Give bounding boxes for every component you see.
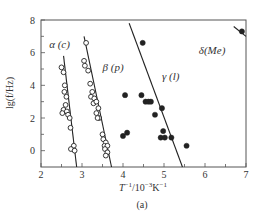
open-circle-marker [59,65,64,70]
filled-circle-marker [140,40,145,45]
filled-circle-marker [122,93,127,98]
open-circle-marker [82,58,87,63]
panel-label: (a) [136,199,147,211]
filled-circle-marker [148,99,153,104]
filled-circle-marker [139,93,144,98]
open-circle-marker [96,106,101,111]
x-axis-title: T−1/10−3K−1 [119,181,167,193]
x-tick-label: 7 [244,169,249,180]
open-circle-marker [68,125,73,130]
fit-line [129,23,182,167]
open-circle-marker [60,111,65,116]
series-label: δ(Me) [199,44,226,57]
filled-circle-marker [169,135,174,140]
y-tick-label: 0 [30,145,35,156]
open-circle-marker [95,116,100,121]
open-circle-marker [82,63,87,68]
y-tick-label: 2 [30,113,35,124]
filled-circle-marker [159,106,164,111]
x-tick-label: 6 [203,169,208,180]
open-circle-marker [84,40,89,45]
x-tick-label: 2 [39,169,44,180]
x-tick-label: 4 [121,169,126,180]
y-axis-title: lg(f/Hz) [4,77,16,109]
filled-circle-marker [161,128,166,133]
open-circle-marker [67,116,72,121]
series-label: α (c) [49,38,70,51]
open-circle-marker [63,103,68,108]
y-tick-label: 8 [30,15,35,26]
filled-circle-marker [125,130,130,135]
open-circle-marker [88,81,93,86]
open-circle-marker [100,132,105,137]
series-label: β (p) [102,61,124,74]
open-circle-marker [62,89,67,94]
open-circle-marker [94,111,99,116]
y-tick-label: 6 [30,47,35,58]
x-tick-label: 5 [162,169,167,180]
open-circle-marker [86,68,91,73]
filled-circle-marker [152,112,157,117]
open-circle-marker [103,153,108,158]
y-tick-label: 4 [30,80,35,91]
open-circle-marker [94,99,99,104]
open-circle-marker [62,83,67,88]
open-circle-marker [61,70,66,75]
arrhenius-chart: 23456702468 α (c)β (p)γ (l)δ(Me) lg(f/Hz… [0,0,266,218]
open-circle-marker [64,94,69,99]
filled-circle-marker [184,143,189,148]
filled-circle-marker [239,29,244,34]
filled-circle-marker [162,135,167,140]
series-label: γ (l) [162,70,180,83]
x-tick-label: 3 [80,169,85,180]
open-circle-marker [90,89,95,94]
open-circle-marker [72,148,77,153]
